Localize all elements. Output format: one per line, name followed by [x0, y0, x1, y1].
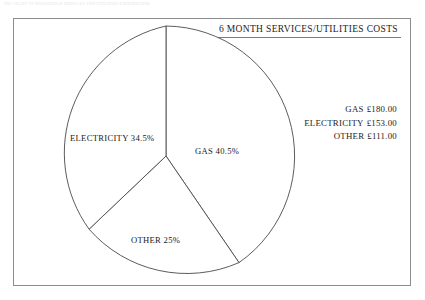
- chart-frame: 6 MONTH SERVICES/UTILITIES COSTS GAS 40.…: [13, 18, 411, 286]
- pie-label-gas: GAS 40.5%: [195, 146, 239, 157]
- legend-amount-electricity: £153.00: [367, 118, 397, 128]
- pie-slice-electricity[interactable]: [64, 26, 166, 229]
- chart-title-block: 6 MONTH SERVICES/UTILITIES COSTS: [216, 23, 401, 38]
- chart-title-underline: [216, 37, 401, 38]
- value-legend: GAS£180.00 ELECTRICITY£153.00 OTHER£111.…: [304, 103, 397, 144]
- pie-slice-other[interactable]: [89, 156, 239, 274]
- legend-row-other: OTHER£111.00: [304, 130, 397, 144]
- legend-label-gas: GAS: [345, 104, 363, 114]
- pie-label-electricity: ELECTRICITY 34.5%: [70, 133, 155, 144]
- legend-row-gas: GAS£180.00: [304, 103, 397, 117]
- scan-header-text: PIE CHART OF HOUSEHOLD SERVICES AND UTIL…: [4, 1, 154, 6]
- chart-title: 6 MONTH SERVICES/UTILITIES COSTS: [216, 23, 401, 37]
- legend-label-other: OTHER: [334, 131, 365, 141]
- legend-amount-other: £111.00: [367, 131, 397, 141]
- pie-slice-gas[interactable]: [166, 26, 295, 263]
- legend-label-electricity: ELECTRICITY: [304, 118, 363, 128]
- legend-amount-gas: £180.00: [367, 104, 397, 114]
- pie-label-other: OTHER 25%: [131, 235, 180, 246]
- legend-row-electricity: ELECTRICITY£153.00: [304, 117, 397, 131]
